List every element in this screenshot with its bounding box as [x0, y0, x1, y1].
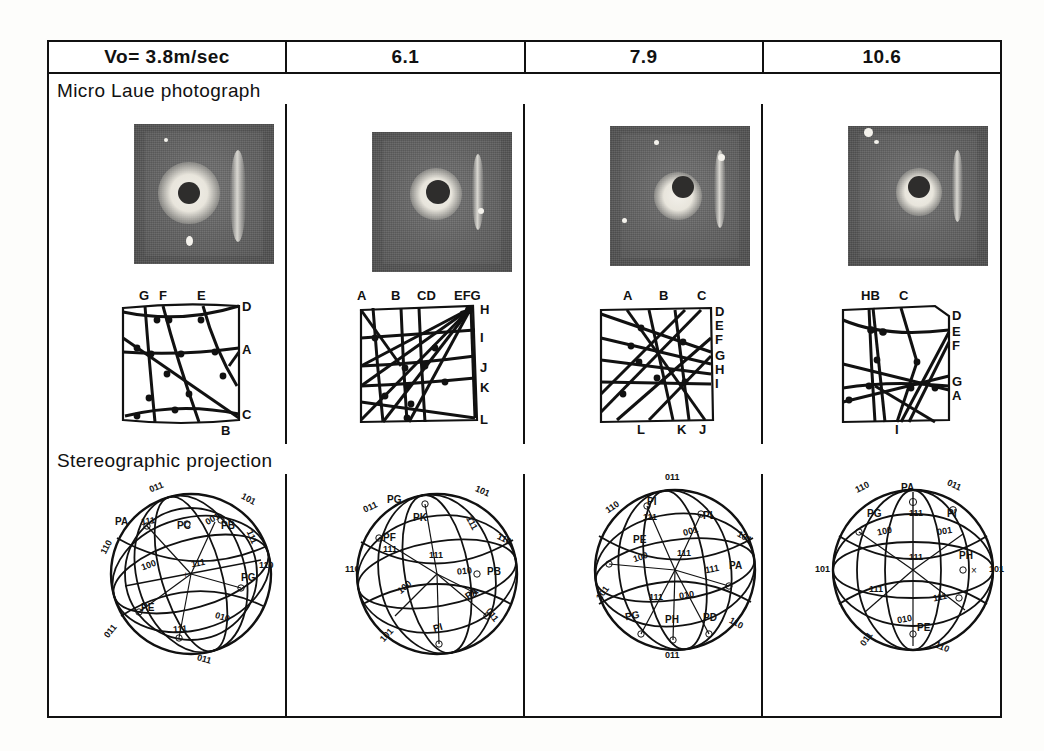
photo-spot — [478, 208, 484, 214]
laue-label-right: H — [480, 302, 489, 317]
photo-spot — [864, 128, 873, 137]
laue-label-top: E — [197, 288, 206, 303]
laue-label-right: G — [952, 374, 962, 389]
header-cell-3: 7.9 — [526, 42, 764, 72]
stereo-pole-PB: PB — [221, 520, 235, 531]
laue-label-bottom: B — [221, 423, 230, 438]
stereo-index: 011 — [665, 472, 680, 482]
stereo-index: 111 — [429, 550, 443, 560]
laue-diagram-svg-4 — [825, 290, 995, 440]
stereo-pole-PD: PD — [703, 612, 717, 623]
stereo-index: 110 — [259, 560, 274, 570]
laue-diagram-1: G F E D A C B — [111, 290, 281, 440]
stereo-index: 101 — [989, 564, 1004, 574]
laue-label-right: E — [715, 318, 724, 333]
photo-spot — [164, 138, 168, 142]
laue-label-top: A — [623, 288, 632, 303]
laue-diagram-svg-1 — [111, 290, 281, 440]
svg-text:+: + — [183, 570, 188, 580]
header-row: Vo= 3.8m/sec 6.1 7.9 10.6 — [49, 42, 1000, 74]
header-cell-2: 6.1 — [287, 42, 525, 72]
stereo-pole-PE: PE — [141, 602, 154, 613]
stereographic-projection-1: + 011 101 PA 111 PC 001 PB 111 110 100 1… — [93, 476, 289, 672]
laue-label-right: F — [952, 338, 960, 353]
stereo-pole-PG: PG — [387, 494, 401, 505]
stereo-index: 111 — [909, 508, 923, 518]
photo-spot — [186, 236, 193, 246]
stereographic-projection-3: 011 110 PI 111 PL 001 101 PE 100 111 111… — [577, 470, 773, 670]
stereo-pole-PF: PF — [383, 532, 396, 543]
column-divider-2-photo — [523, 104, 525, 444]
laue-diagram-2: A B CD EFG H I J K L — [349, 290, 519, 440]
stereo-pole-PL: PL — [703, 510, 716, 521]
laue-photograph-3 — [610, 126, 750, 266]
laue-label-top: B — [659, 288, 668, 303]
stereo-index: 010 — [678, 589, 694, 601]
row-label-stereo: Stereographic projection — [57, 450, 273, 472]
laue-diagram-svg-3 — [587, 290, 757, 440]
photo-arc — [952, 150, 963, 222]
stereo-index: 010 — [457, 565, 473, 577]
column-divider-1-photo — [285, 104, 287, 444]
laue-label-right: I — [480, 330, 484, 345]
photo-spot — [622, 218, 627, 223]
laue-photograph-1 — [134, 124, 274, 264]
laue-label-right: C — [242, 407, 251, 422]
photo-core — [178, 182, 200, 204]
laue-label-right: K — [480, 380, 489, 395]
laue-photograph-4 — [848, 126, 988, 266]
laue-label-bottom: J — [699, 422, 706, 437]
laue-label-top: G — [139, 288, 149, 303]
laue-label-top: C — [697, 288, 706, 303]
stereo-pole-PA: PA — [729, 560, 742, 571]
stereo-index: 111 — [869, 584, 883, 594]
laue-label-top: C — [899, 288, 908, 303]
laue-label-bottom: I — [895, 422, 899, 437]
stereo-index: 111 — [909, 552, 923, 562]
laue-diagram-svg-2 — [349, 290, 519, 440]
stereo-index: 111 — [383, 544, 397, 554]
photo-arc — [472, 154, 484, 230]
stereo-pole-PE: PE — [917, 622, 930, 633]
stereographic-svg-1: + — [93, 476, 289, 672]
laue-label-right: F — [715, 332, 723, 347]
laue-label-top: EFG — [454, 288, 481, 303]
laue-photograph-2 — [372, 132, 512, 272]
laue-label-bottom: K — [677, 422, 686, 437]
laue-label-right: I — [715, 376, 719, 391]
stereo-pole-PA: PA — [901, 482, 914, 493]
photo-spot — [718, 154, 725, 161]
photo-core — [426, 180, 450, 204]
laue-label-right: A — [952, 388, 961, 403]
stereo-pole-PA: PA — [115, 516, 128, 527]
laue-label-top: F — [159, 288, 167, 303]
photo-spot — [874, 140, 879, 144]
stereo-index: 101 — [815, 564, 830, 574]
stereo-pole-PH: PH — [959, 550, 973, 561]
stereographic-svg-4: × — [813, 470, 1013, 670]
stereo-index: 011 — [665, 650, 680, 660]
svg-text:×: × — [971, 565, 977, 576]
stereo-index: 001 — [936, 525, 952, 537]
laue-label-right: G — [715, 348, 725, 363]
figure-table: Vo= 3.8m/sec 6.1 7.9 10.6 Micro Laue pho… — [47, 40, 1002, 718]
stereo-pole-PK: PK — [413, 512, 427, 523]
stereo-pole-PI: PI — [947, 508, 956, 519]
stereo-pole-PI: PI — [647, 496, 656, 507]
header-cell-4: 10.6 — [764, 42, 1000, 72]
laue-label-right: L — [480, 412, 488, 427]
stereo-index: 111 — [649, 592, 663, 602]
stereo-pole-PB: PB — [487, 566, 501, 577]
stereo-index: 110 — [345, 564, 360, 574]
stereo-index: 111 — [643, 512, 657, 522]
photo-spot — [654, 140, 659, 145]
photo-core — [908, 176, 930, 198]
stereographic-projection-2: 011 PG 101 PK 111 PF 111 110 111 110 010… — [339, 476, 535, 672]
laue-label-right: J — [480, 360, 487, 375]
header-cell-1: Vo= 3.8m/sec — [49, 42, 287, 72]
stereo-pole-PH: PH — [665, 614, 679, 625]
laue-label-right: D — [242, 299, 251, 314]
row-label-photo: Micro Laue photograph — [57, 80, 261, 102]
laue-figure: Vo= 3.8m/sec 6.1 7.9 10.6 Micro Laue pho… — [0, 0, 1044, 751]
stereo-pole-PE: PE — [633, 534, 646, 545]
